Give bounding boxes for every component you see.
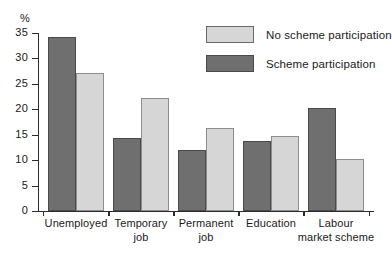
legend-swatch-icon: [206, 55, 254, 72]
bar: [76, 73, 104, 211]
bar: [141, 98, 169, 211]
y-axis-tick-label: 10: [15, 153, 28, 166]
y-axis-unit-label: %: [20, 12, 30, 24]
y-axis-tick-label: 15: [15, 128, 28, 141]
y-axis-tick-label: 0: [22, 204, 28, 217]
y-axis-tick: 25: [32, 84, 38, 85]
y-axis-tick: 0: [32, 211, 38, 212]
category-label-line: market scheme: [291, 230, 381, 244]
legend-item-label: No scheme participation: [266, 28, 392, 42]
legend-item-label: Scheme participation: [266, 57, 375, 71]
y-axis-tick: 10: [32, 160, 38, 161]
y-axis-tick-label: 25: [15, 77, 28, 90]
y-axis-tick-label: 30: [15, 51, 28, 64]
y-axis-tick: 20: [32, 109, 38, 110]
y-axis-line: [38, 33, 39, 211]
y-axis-tick: 15: [32, 135, 38, 136]
y-axis-tick-label: 35: [15, 26, 28, 39]
legend-swatch-icon: [206, 26, 254, 43]
bar: [308, 108, 336, 211]
bar: [243, 141, 271, 211]
y-axis-tick: 30: [32, 58, 38, 59]
bar: [48, 37, 76, 211]
chart-legend: No scheme participation Scheme participa…: [206, 26, 392, 84]
legend-item-scheme-participation: Scheme participation: [206, 55, 392, 72]
category-label-line: job: [161, 230, 251, 244]
y-axis-tick-label: 20: [15, 102, 28, 115]
y-axis-tick-label: 5: [22, 179, 28, 192]
bar: [113, 138, 141, 211]
bar: [336, 159, 364, 211]
category-label-line: Labour: [291, 216, 381, 230]
bar: [271, 136, 299, 211]
x-axis-category-label: Labourmarket scheme: [291, 216, 381, 244]
x-axis-line: [38, 211, 374, 212]
y-axis-tick: 5: [32, 186, 38, 187]
y-axis-tick: 35: [32, 33, 38, 34]
bar: [206, 128, 234, 211]
legend-item-no-scheme-participation: No scheme participation: [206, 26, 392, 43]
bar: [178, 150, 206, 211]
